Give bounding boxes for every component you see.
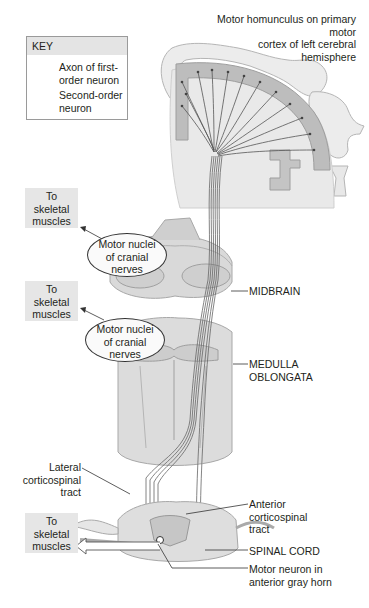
homunculus-title: Motor homunculus on primary motor cortex… bbox=[190, 13, 356, 63]
motor-nuclei-cranial-nerves-medulla: Motor nucleiof cranialnerves bbox=[85, 318, 165, 362]
label-spinal-cord: SPINAL CORD bbox=[249, 545, 320, 558]
label-lateral-corticospinal-tract: Lateralcorticospinaltract bbox=[10, 461, 81, 499]
label-motor-neuron-anterior-gray-horn: Motor neuron inanterior gray horn bbox=[249, 563, 332, 588]
key-heading: KEY bbox=[27, 37, 127, 55]
label-medulla-oblongata: MEDULLAOBLONGATA bbox=[249, 358, 313, 383]
target-skeletal-muscles-1: Toskeletalmuscles bbox=[25, 188, 78, 228]
target-skeletal-muscles-3: Toskeletalmuscles bbox=[25, 513, 78, 553]
legend-key: KEY Axon of first- order neuron Second-o… bbox=[26, 36, 128, 120]
label-anterior-corticospinal-tract: Anteriorcorticospinaltract bbox=[249, 498, 307, 536]
target-skeletal-muscles-2: Toskeletalmuscles bbox=[25, 281, 78, 321]
midbrain-right-peduncle bbox=[182, 264, 230, 288]
key-item-second-order: Second-order neuron bbox=[59, 89, 123, 114]
key-item-first-order: Axon of first- order neuron bbox=[59, 61, 119, 86]
label-midbrain: MIDBRAIN bbox=[249, 285, 300, 298]
dorsal-root bbox=[72, 520, 118, 534]
motor-nuclei-cranial-nerves-midbrain: Motor nucleiof cranialnerves bbox=[87, 233, 167, 277]
